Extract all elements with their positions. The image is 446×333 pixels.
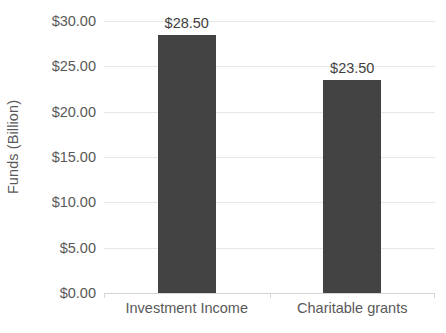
y-axis-tick-label: $0.00 [22, 285, 96, 301]
bar-group: $23.50 [270, 21, 436, 293]
bar[interactable] [323, 80, 381, 293]
y-axis-tick-label: $10.00 [22, 194, 96, 210]
y-axis-tick-label: $15.00 [22, 149, 96, 165]
bar-value-label: $28.50 [165, 15, 209, 31]
x-axis-category-label: Charitable grants [297, 300, 407, 316]
bar-group: $28.50 [104, 21, 270, 293]
x-axis-ticks [104, 293, 435, 299]
y-axis-tick-label: $30.00 [22, 13, 96, 29]
bar-value-label: $23.50 [330, 60, 374, 76]
y-axis-tick-label: $20.00 [22, 104, 96, 120]
y-axis-title-text: Funds (Billion) [5, 99, 21, 193]
x-axis-tick [270, 293, 271, 298]
x-axis-category-labels: Investment IncomeCharitable grants [104, 300, 435, 326]
x-axis-category-label: Investment Income [126, 300, 249, 316]
y-axis-tick-label: $25.00 [22, 58, 96, 74]
bar-chart: Funds (Billion) $0.00$5.00$10.00$15.00$2… [0, 0, 446, 333]
y-axis-tick-label: $5.00 [22, 240, 96, 256]
bars-layer: $28.50$23.50 [104, 21, 435, 293]
x-axis-tick [434, 293, 435, 298]
bar[interactable] [158, 35, 216, 293]
x-axis-tick [104, 293, 105, 298]
y-axis-tick-labels: $0.00$5.00$10.00$15.00$20.00$25.00$30.00 [22, 0, 96, 333]
